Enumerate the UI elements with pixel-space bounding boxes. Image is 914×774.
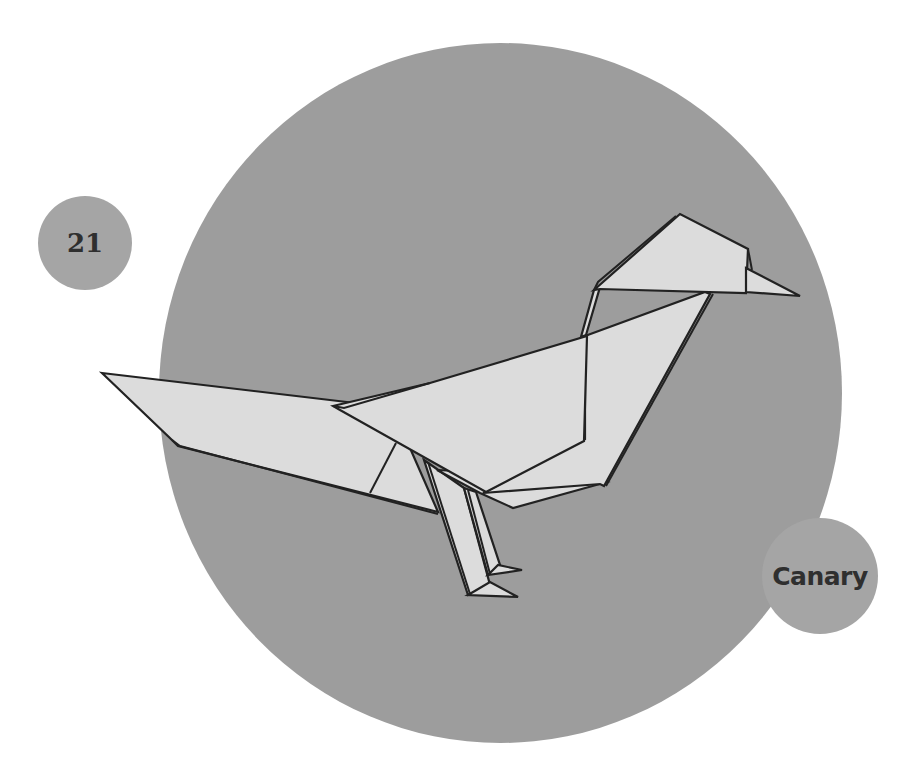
book-page: 21: [0, 0, 914, 774]
canary-icon: [102, 214, 800, 597]
head: [594, 214, 748, 293]
beak: [746, 268, 800, 296]
model-title: Canary: [772, 562, 868, 591]
title-badge: Canary: [762, 518, 878, 634]
origami-canary-illustration: [0, 0, 914, 774]
neck: [581, 287, 600, 337]
